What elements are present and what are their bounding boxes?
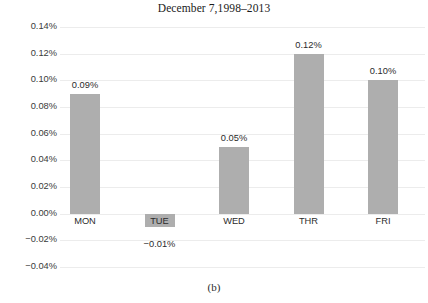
bar-value-label: −0.01% — [130, 239, 190, 249]
y-axis-tick-label: −0.02% — [3, 234, 57, 244]
figure-panel: December 7,1998–2013 0.14%0.12%0.10%0.08… — [0, 0, 428, 303]
y-axis-tick-label: 0.06% — [3, 128, 57, 138]
plot-area: MONTUEWEDTHRFRI 0.09%−0.01%0.05%0.12%0.1… — [60, 27, 425, 267]
chart-title: December 7,1998–2013 — [0, 2, 428, 14]
bar-value-label: 0.10% — [353, 66, 413, 76]
y-axis-tick-labels: 0.14%0.12%0.10%0.08%0.06%0.04%0.02%0.00%… — [0, 27, 57, 267]
y-axis-tick-label: 0.08% — [3, 101, 57, 111]
y-axis-tick-label: 0.02% — [3, 181, 57, 191]
y-axis-tick-label: 0.00% — [3, 208, 57, 218]
gridline — [60, 267, 425, 268]
bar-wed[interactable] — [219, 147, 249, 214]
x-axis-label-tue: TUE — [130, 216, 190, 226]
y-axis-tick-label: 0.04% — [3, 154, 57, 164]
gridline — [60, 240, 425, 241]
x-axis-label-thr: THR — [279, 216, 339, 226]
gridline — [60, 214, 425, 215]
x-axis-label-mon: MON — [55, 216, 115, 226]
y-axis-tick-label: 0.12% — [3, 48, 57, 58]
bar-thr[interactable] — [294, 54, 324, 214]
figure-caption: (b) — [0, 281, 428, 293]
bar-value-label: 0.09% — [55, 80, 115, 90]
bar-value-label: 0.12% — [279, 40, 339, 50]
bar-mon[interactable] — [70, 94, 100, 214]
bar-value-label: 0.05% — [204, 133, 264, 143]
y-axis-tick-label: 0.14% — [3, 21, 57, 31]
y-axis-tick-label: 0.10% — [3, 74, 57, 84]
gridline — [60, 54, 425, 55]
bar-fri[interactable] — [368, 80, 398, 213]
gridline — [60, 27, 425, 28]
x-axis-label-wed: WED — [204, 216, 264, 226]
x-axis-label-fri: FRI — [353, 216, 413, 226]
y-axis-tick-label: −0.04% — [3, 261, 57, 271]
